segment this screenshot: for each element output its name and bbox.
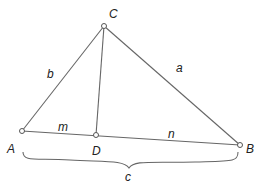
side-b [22,26,104,131]
diagram-canvas: C A D B b a m n c [0,0,259,184]
triangle-diagram: C A D B b a m n c [0,0,259,184]
point-d [94,133,99,138]
point-a [20,129,25,134]
label-b-vertex: B [246,142,254,156]
label-side-b: b [47,67,54,81]
label-a-vertex: A [6,142,15,156]
side-c-base [22,131,240,145]
point-b [238,143,243,148]
brace-c [23,152,238,168]
label-d-vertex: D [92,144,101,158]
point-c [102,24,107,29]
label-c-vertex: C [109,7,118,21]
label-side-c: c [125,170,131,184]
label-segment-m: m [58,120,68,134]
label-side-a: a [176,61,183,75]
altitude-cd [96,26,104,135]
label-segment-n: n [168,127,175,141]
